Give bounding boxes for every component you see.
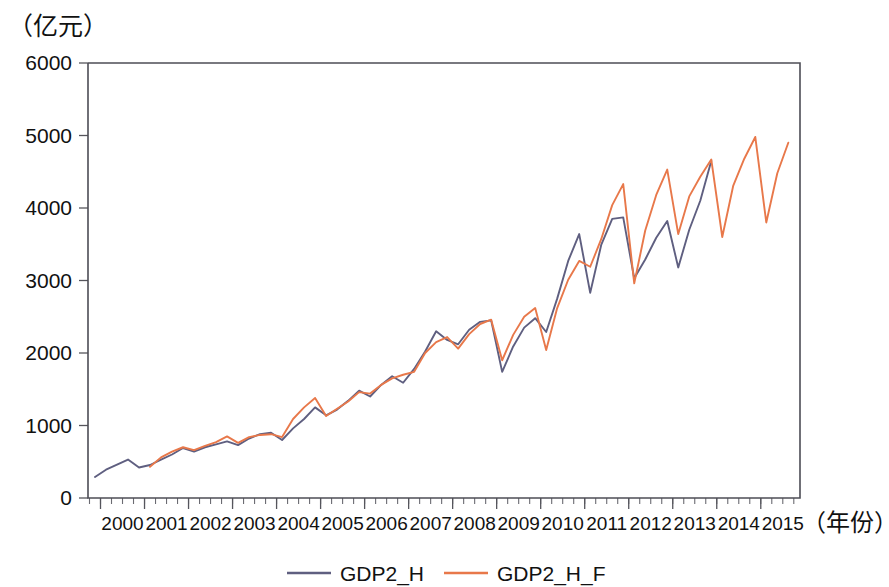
data-series-group bbox=[95, 137, 788, 477]
x-tick-label: 2009 bbox=[498, 513, 540, 534]
plot-frame bbox=[88, 63, 800, 498]
y-axis-ticks: 0100020003000400050006000 bbox=[25, 51, 88, 509]
series-line-gdp2_h_f bbox=[150, 137, 788, 467]
x-tick-label: 2003 bbox=[233, 513, 275, 534]
x-tick-label: 2015 bbox=[762, 513, 804, 534]
x-tick-label: 2001 bbox=[145, 513, 187, 534]
legend-label-gdp2_h_f: GDP2_H_F bbox=[497, 562, 606, 586]
y-tick-label: 3000 bbox=[25, 269, 72, 292]
x-tick-label: 2012 bbox=[630, 513, 672, 534]
y-tick-label: 5000 bbox=[25, 124, 72, 147]
y-tick-label: 1000 bbox=[25, 414, 72, 437]
x-tick-label: 2014 bbox=[718, 513, 761, 534]
chart-container: （亿元） （年份） 0100020003000400050006000 2000… bbox=[0, 0, 889, 587]
x-tick-label: 2000 bbox=[101, 513, 143, 534]
x-tick-label: 2007 bbox=[410, 513, 452, 534]
x-tick-label: 2013 bbox=[674, 513, 716, 534]
x-tick-label: 2006 bbox=[365, 513, 407, 534]
y-tick-label: 2000 bbox=[25, 341, 72, 364]
legend-label-gdp2_h: GDP2_H bbox=[340, 562, 424, 586]
line-chart-plot: 0100020003000400050006000 20002001200220… bbox=[0, 0, 889, 587]
x-tick-label: 2011 bbox=[586, 513, 627, 534]
x-axis-ticks: 2000200120022003200420052006200720082009… bbox=[89, 498, 803, 534]
x-tick-label: 2002 bbox=[189, 513, 231, 534]
plot-border bbox=[88, 63, 800, 498]
chart-legend: GDP2_HGDP2_H_F bbox=[287, 562, 606, 586]
x-tick-label: 2008 bbox=[454, 513, 496, 534]
series-line-gdp2_h bbox=[95, 161, 711, 477]
y-tick-label: 6000 bbox=[25, 51, 72, 74]
x-tick-label: 2004 bbox=[277, 513, 320, 534]
y-tick-label: 0 bbox=[60, 486, 72, 509]
x-tick-label: 2005 bbox=[321, 513, 363, 534]
x-tick-label: 2010 bbox=[542, 513, 584, 534]
y-tick-label: 4000 bbox=[25, 196, 72, 219]
